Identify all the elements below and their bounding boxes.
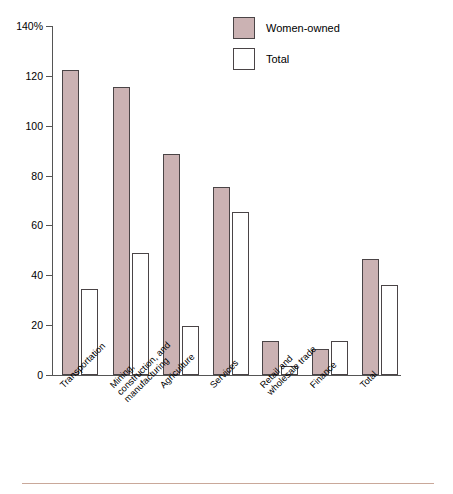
y-tick-label-140%: 140% <box>16 21 43 31</box>
y-tick-label-60: 60 <box>31 220 43 230</box>
bar-women-owned <box>113 87 130 375</box>
bar-group <box>351 26 401 375</box>
bar-group <box>202 26 252 375</box>
y-tick-label-40: 40 <box>31 270 43 280</box>
bar-group <box>52 26 102 375</box>
bar-total <box>232 212 249 375</box>
bar-women-owned <box>62 70 79 375</box>
y-tick-label-100: 100 <box>25 121 43 131</box>
y-tick-label-80: 80 <box>31 171 43 181</box>
plot-area <box>52 26 401 375</box>
bar-group <box>251 26 301 375</box>
y-tick-label-20: 20 <box>31 320 43 330</box>
bar-chart: Women-owned Total 020406080100120140% Tr… <box>0 0 453 494</box>
bar-women-owned <box>213 187 230 375</box>
bar-group <box>301 26 351 375</box>
footer-rule <box>22 483 434 484</box>
y-tick-label-120: 120 <box>25 71 43 81</box>
y-tick-0 <box>46 375 53 376</box>
bar-group <box>152 26 202 375</box>
x-axis-labels: TransportationMining, construction, and … <box>0 379 453 489</box>
bar-group <box>102 26 152 375</box>
bar-total <box>381 285 398 375</box>
bar-women-owned <box>362 259 379 375</box>
